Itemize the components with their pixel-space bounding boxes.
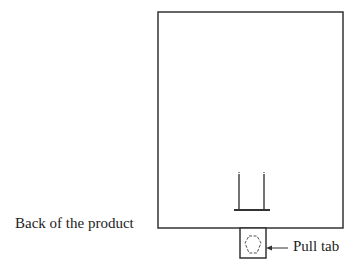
- back-of-product-label: Back of the product: [15, 215, 134, 232]
- product-back-outline: [158, 12, 343, 228]
- pull-tab-label: Pull tab: [293, 238, 339, 255]
- product-back-diagram: [0, 0, 361, 277]
- pull-tab[interactable]: [240, 228, 266, 258]
- pull-tab-arrow: [266, 246, 288, 251]
- slot-opening: [234, 172, 270, 210]
